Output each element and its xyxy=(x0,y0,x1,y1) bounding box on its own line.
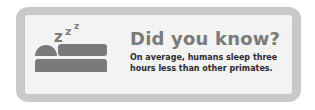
fact-body-line-1: On average, humans sleep three xyxy=(130,52,290,63)
sleeping-in-bed-icon: z z z xyxy=(14,12,112,72)
fact-body-line-2: hours less than other primates. xyxy=(130,63,290,74)
fact-body: On average, humans sleep three hours les… xyxy=(130,52,290,74)
svg-text:z: z xyxy=(74,21,79,31)
svg-text:z: z xyxy=(65,25,71,38)
svg-text:z: z xyxy=(54,28,63,46)
fact-title: Did you know? xyxy=(130,29,280,49)
